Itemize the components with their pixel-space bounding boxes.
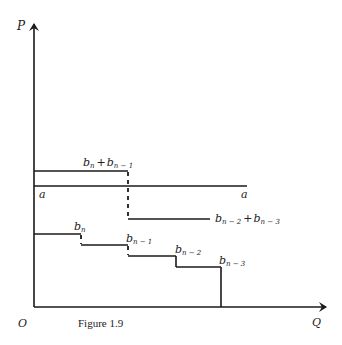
origin-label: O xyxy=(18,317,27,330)
upper-step-right-label: bn − 2+bn − 3 xyxy=(215,212,280,226)
step-label-bn-3: bn − 3 xyxy=(219,254,246,268)
upper-step-curve xyxy=(34,171,210,219)
line-a-right-label: a xyxy=(241,188,248,201)
figure-caption: Figure 1.9 xyxy=(78,317,124,329)
figure-1-9: P Q O bn+bn − 1 bn − 2+bn − 3 a a bn bn … xyxy=(0,0,342,345)
line-a-left-label: a xyxy=(39,188,46,201)
step-label-bn-2: bn − 2 xyxy=(175,243,202,257)
x-axis-label: Q xyxy=(312,316,321,329)
upper-step-left-label: bn+bn − 1 xyxy=(83,156,133,170)
y-axis-label: P xyxy=(16,19,26,33)
step-label-bn: bn xyxy=(74,220,86,234)
step-label-bn-1: bn − 1 xyxy=(126,232,152,246)
